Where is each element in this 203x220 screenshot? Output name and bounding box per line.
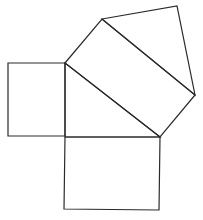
pythagorean-diagram <box>0 0 203 220</box>
square-on-left-leg <box>8 63 65 136</box>
top-triangle <box>102 6 195 95</box>
right-triangle <box>65 63 160 137</box>
square-on-bottom-leg <box>64 137 160 210</box>
